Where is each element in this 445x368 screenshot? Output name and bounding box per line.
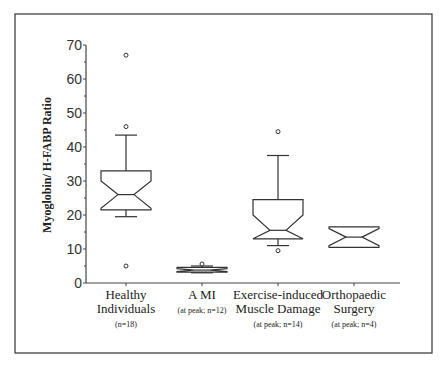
y-tick-label: 50 (66, 105, 82, 121)
box-ami (177, 262, 227, 273)
y-tick-label: 30 (66, 173, 82, 189)
axes: 010203040506070 (66, 37, 400, 291)
box-healthy-individuals (101, 53, 151, 268)
y-tick-label: 60 (66, 71, 82, 87)
outlier-point (124, 125, 128, 129)
category-label: Surgery (334, 301, 375, 316)
y-axis-label: Myoglobin/ H-FABP Ratio (40, 97, 54, 233)
box-exercise-induced-muscle-damage (253, 130, 303, 253)
category-label: Individuals (97, 301, 156, 316)
y-tick-label: 20 (66, 207, 82, 223)
outlier-point (124, 264, 128, 268)
y-tick-label: 10 (66, 241, 82, 257)
outlier-point (200, 262, 204, 266)
category-label: A MI (188, 287, 216, 302)
outlier-point (276, 249, 280, 253)
y-tick-label: 0 (74, 275, 82, 291)
outlier-point (124, 53, 128, 57)
category-sublabel: (n=18) (115, 320, 137, 329)
outlier-point (276, 130, 280, 134)
category-sublabel: (at peak; n=14) (254, 320, 303, 329)
y-tick-label: 70 (66, 37, 82, 53)
category-label: Orthopaedic (322, 287, 386, 302)
category-label: Healthy (105, 287, 147, 302)
category-sublabel: (at peak; n=4) (332, 320, 377, 329)
category-label: Muscle Damage (236, 301, 321, 316)
category-label: Exercise-induced (233, 287, 324, 302)
boxplot-chart: 010203040506070 Myoglobin/ H-FABP Ratio … (0, 0, 445, 368)
y-tick-label: 40 (66, 139, 82, 155)
plot-area (101, 53, 379, 273)
box-orthopaedic-surgery (329, 227, 379, 247)
notched-box (101, 171, 151, 210)
x-axis-labels: HealthyIndividuals(n=18)A MI(at peak; n=… (97, 287, 387, 329)
category-sublabel: (at peak; n=12) (178, 306, 227, 315)
notched-box (253, 200, 303, 239)
